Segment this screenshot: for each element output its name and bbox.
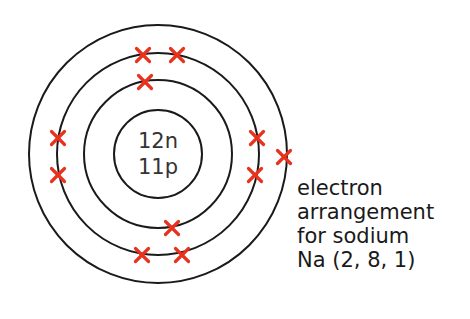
nucleus-protons-label: 11p <box>138 155 178 179</box>
nucleus-neutrons-label: 12n <box>138 129 178 153</box>
electron-shell-3 <box>278 151 291 164</box>
caption-line-3: for sodium <box>297 224 434 248</box>
caption-line-2: arrangement <box>297 200 434 224</box>
caption: electron arrangement for sodium Na (2, 8… <box>297 176 434 272</box>
shell-2 <box>57 53 259 255</box>
shell-1 <box>84 80 232 228</box>
electron-shell-2 <box>176 249 189 262</box>
nucleus <box>114 110 202 198</box>
outer-shell-3 <box>29 25 287 283</box>
caption-line-1: electron <box>297 176 434 200</box>
caption-line-4: Na (2, 8, 1) <box>297 248 434 272</box>
